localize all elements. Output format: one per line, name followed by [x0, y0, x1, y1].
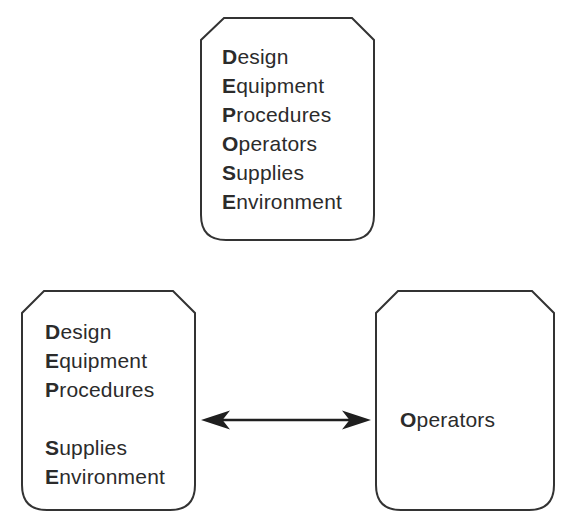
acronym-line-operators: Operators — [222, 129, 342, 158]
acronym-line-supplies: Supplies — [222, 158, 342, 187]
acronym-rest: upplies — [59, 436, 127, 459]
acronym-initial: P — [45, 378, 59, 401]
acronym-line-design: Design — [45, 317, 165, 346]
acronym-line-supplies: Supplies — [45, 433, 165, 462]
acronym-initial: D — [45, 320, 60, 343]
acronym-line-operators: Operators — [400, 405, 495, 434]
acronym-line-procedures: Procedures — [222, 100, 342, 129]
bidirectional-arrow — [194, 404, 378, 436]
acronym-line-environment: Environment — [45, 462, 165, 491]
acronym-rest: esign — [60, 320, 111, 343]
acronym-rest: quipment — [236, 74, 324, 97]
acronym-line-equipment: Equipment — [222, 71, 342, 100]
acronym-rest: perators — [417, 408, 496, 431]
acronym-rest: rocedures — [236, 103, 331, 126]
acronym-rest: nvironment — [59, 465, 165, 488]
acronym-rest: rocedures — [59, 378, 154, 401]
acronym-rest: nvironment — [236, 190, 342, 213]
acronym-initial: O — [400, 408, 417, 431]
acronym-initial: S — [222, 161, 236, 184]
depose-box-full: Design Equipment Procedures Operators Su… — [200, 17, 375, 241]
acronym-initial: S — [45, 436, 59, 459]
acronym-line-design: Design — [222, 42, 342, 71]
depose-list-without-operators: Design Equipment Procedures Supplies Env… — [45, 317, 165, 491]
operators-label-group: Operators — [400, 405, 495, 434]
acronym-initial: E — [222, 190, 236, 213]
acronym-line-environment: Environment — [222, 187, 342, 216]
depose-diagram: Design Equipment Procedures Operators Su… — [0, 0, 579, 530]
acronym-initial: D — [222, 45, 237, 68]
operators-box: Operators — [375, 290, 555, 511]
depose-list-full: Design Equipment Procedures Operators Su… — [222, 42, 342, 216]
acronym-line-blank — [45, 404, 165, 433]
box-outline-path — [376, 291, 554, 510]
acronym-initial: E — [45, 465, 59, 488]
acronym-rest: perators — [239, 132, 318, 155]
acronym-initial: E — [222, 74, 236, 97]
depose-box-without-operators: Design Equipment Procedures Supplies Env… — [21, 290, 196, 511]
acronym-rest: quipment — [59, 349, 147, 372]
box-outline — [375, 290, 555, 511]
acronym-rest: esign — [237, 45, 288, 68]
acronym-initial: E — [45, 349, 59, 372]
acronym-initial: O — [222, 132, 239, 155]
acronym-line-equipment: Equipment — [45, 346, 165, 375]
acronym-rest: upplies — [236, 161, 304, 184]
acronym-line-procedures: Procedures — [45, 375, 165, 404]
acronym-initial: P — [222, 103, 236, 126]
